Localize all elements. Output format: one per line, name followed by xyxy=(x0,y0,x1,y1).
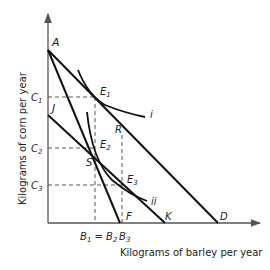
e1-sub: 1 xyxy=(106,91,110,99)
label-E3: E3 xyxy=(127,174,138,187)
budget-line-AF xyxy=(48,50,120,223)
tick-b3: B3 xyxy=(119,231,130,244)
tick-c2: C2 xyxy=(31,143,43,156)
c3-sub: 3 xyxy=(38,185,42,193)
budget-line-AD xyxy=(48,50,218,223)
tick-c3: C3 xyxy=(31,180,42,193)
label-K: K xyxy=(165,211,173,222)
label-S: S xyxy=(86,157,93,168)
budget-constraint-diagram: A J R S F K D E1 E2 E3 i ii C1 C2 C3 B1 … xyxy=(0,0,270,270)
c1-sub: 1 xyxy=(38,97,42,105)
e2-sub: 2 xyxy=(106,144,111,152)
b3-sub: 3 xyxy=(126,236,130,244)
tick-c1: C1 xyxy=(31,92,42,105)
c2-sub: 2 xyxy=(38,148,43,156)
label-A: A xyxy=(51,36,60,49)
label-D: D xyxy=(220,211,228,222)
label-curve-ii: ii xyxy=(151,196,157,207)
label-E2: E2 xyxy=(100,139,111,152)
b2-sub: 2 xyxy=(113,236,118,244)
dashed-guides xyxy=(48,97,122,223)
c2-main: C xyxy=(31,143,38,154)
x-axis-title: Kilograms of barley per year xyxy=(120,247,263,258)
label-curve-i: i xyxy=(150,109,153,120)
b-eq: = xyxy=(91,231,106,242)
indifference-curve-i xyxy=(78,70,145,117)
label-E1: E1 xyxy=(100,86,111,99)
label-J: J xyxy=(50,102,55,115)
c1-main: C xyxy=(31,92,38,103)
budget-line-JK xyxy=(48,115,165,223)
label-R: R xyxy=(115,124,122,135)
tick-b1-b2: B1 = B2 xyxy=(80,231,118,244)
c3-main: C xyxy=(31,180,38,191)
y-axis-title: Kilograms of corn per year xyxy=(17,71,28,205)
e3-sub: 3 xyxy=(133,179,137,187)
label-F: F xyxy=(126,211,132,222)
